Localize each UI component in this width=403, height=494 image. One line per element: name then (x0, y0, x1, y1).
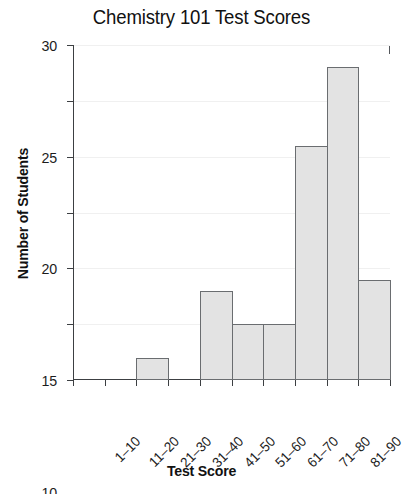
x-tick-mark (327, 380, 328, 386)
y-tick-label: 20 (42, 260, 58, 277)
y-tick-mark: 25 (67, 101, 73, 102)
x-tick-mark (358, 380, 359, 386)
y-tick-mark: 15 (67, 213, 73, 214)
gridline (74, 45, 390, 46)
x-tick-mark (168, 380, 169, 386)
bar (295, 146, 328, 381)
bar (232, 324, 264, 380)
y-tick-label: 15 (42, 372, 58, 389)
x-tick-mark (200, 380, 201, 386)
x-tick-mark (105, 380, 106, 386)
y-tick-label: 25 (42, 148, 58, 165)
x-tick-mark (390, 380, 391, 386)
y-tick-mark: 30 (67, 45, 73, 46)
x-tick-mark (73, 380, 74, 386)
x-tick-mark (136, 380, 137, 386)
y-tick-label: 30 (42, 37, 58, 54)
x-tick-mark (295, 380, 296, 386)
plot-area: 051015202530 1–1011–2021–3031–4041–5051–… (73, 45, 390, 380)
bar (358, 280, 391, 381)
plot-frame-right (389, 45, 390, 54)
x-axis-title: Test Score (12, 462, 391, 479)
bar (327, 67, 359, 380)
bar (136, 358, 169, 380)
bar (200, 291, 233, 380)
x-tick-label: 1–10 (111, 433, 143, 465)
chart-figure: Chemistry 101 Test Scores Number of Stud… (0, 0, 403, 494)
x-tick-mark (232, 380, 233, 386)
y-tick-mark: 5 (67, 324, 73, 325)
y-axis-title: Number of Students (14, 124, 31, 303)
y-tick-mark: 10 (67, 268, 73, 269)
chart-title: Chemistry 101 Test Scores (14, 6, 389, 29)
y-tick-label: 10 (42, 483, 58, 494)
bar (263, 324, 296, 380)
y-tick-mark: 20 (67, 157, 73, 158)
x-tick-mark (263, 380, 264, 386)
